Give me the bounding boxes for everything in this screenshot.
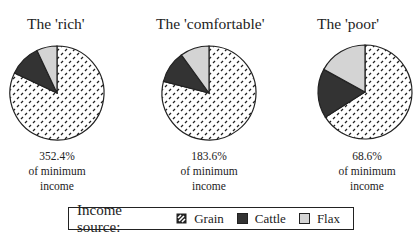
legend-item-cattle: Cattle <box>237 211 286 227</box>
cattle-swatch-icon <box>237 213 248 224</box>
pie-title-poor: The 'poor' <box>317 15 379 33</box>
legend-item-grain: Grain <box>176 211 224 227</box>
pie-comfortable <box>162 46 256 140</box>
caption-line-3: income <box>322 179 412 194</box>
caption-line-2: of minimum <box>164 164 254 179</box>
legend-label-cattle: Cattle <box>255 211 286 227</box>
grain-swatch-icon <box>176 213 187 224</box>
legend-item-flax: Flax <box>299 211 340 227</box>
pie-caption-comfortable: 183.6% of minimum income <box>164 149 254 194</box>
caption-percent: 352.4% <box>12 149 102 164</box>
caption-percent: 68.6% <box>322 149 412 164</box>
chart-area: The 'rich' The 'comfortable' The 'poor' … <box>0 0 415 239</box>
legend-label-flax: Flax <box>317 211 340 227</box>
caption-line-3: income <box>164 179 254 194</box>
caption-line-2: of minimum <box>322 164 412 179</box>
caption-line-2: of minimum <box>12 164 102 179</box>
pie-rich <box>10 46 104 140</box>
caption-percent: 183.6% <box>164 149 254 164</box>
pie-caption-rich: 352.4% of minimum income <box>12 149 102 194</box>
pie-poor <box>318 45 412 139</box>
pie-charts <box>0 0 415 239</box>
pie-title-rich: The 'rich' <box>27 15 85 33</box>
legend-title: Income source: <box>77 202 156 236</box>
pie-title-comfortable: The 'comfortable' <box>156 15 264 33</box>
caption-line-3: income <box>12 179 102 194</box>
legend: Income source: Grain Cattle Flax <box>68 207 354 230</box>
pie-caption-poor: 68.6% of minimum income <box>322 149 412 194</box>
legend-label-grain: Grain <box>194 211 224 227</box>
flax-swatch-icon <box>299 213 310 224</box>
